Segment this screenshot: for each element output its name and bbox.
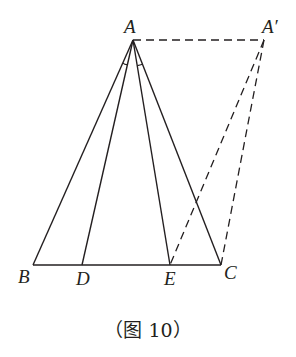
label-A: A <box>124 16 136 38</box>
label-D: D <box>76 268 90 290</box>
label-A-prime: A′ <box>262 16 278 38</box>
angle-mark-EAC <box>137 64 142 65</box>
label-C: C <box>224 262 237 284</box>
segment-AD <box>82 40 133 265</box>
segment-AC <box>133 40 221 265</box>
figure-caption: （图 10） <box>0 315 296 342</box>
segment-A-prime-E <box>170 40 264 265</box>
segment-A-prime-C <box>221 40 264 265</box>
segment-AE <box>133 40 170 265</box>
geometry-figure <box>0 0 296 357</box>
segment-AB <box>33 40 133 265</box>
label-B: B <box>18 266 30 288</box>
label-E: E <box>164 268 176 290</box>
angle-mark-BAD <box>123 63 128 65</box>
